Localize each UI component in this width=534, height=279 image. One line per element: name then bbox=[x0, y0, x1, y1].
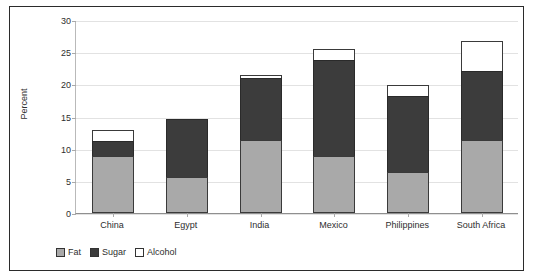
bar-segment-sugar[interactable] bbox=[461, 71, 503, 140]
bar-segment-sugar[interactable] bbox=[313, 60, 355, 157]
legend-item-sugar[interactable]: Sugar bbox=[90, 248, 126, 257]
bar-group[interactable] bbox=[76, 21, 150, 213]
bar-segment-sugar[interactable] bbox=[387, 96, 429, 173]
bar-group[interactable] bbox=[150, 21, 224, 213]
chart-title bbox=[10, 0, 534, 7]
bar-group[interactable] bbox=[445, 21, 519, 213]
y-axis-tick-label: 5 bbox=[31, 178, 71, 187]
x-axis-tick-label: China bbox=[75, 219, 149, 231]
legend-label: Alcohol bbox=[147, 248, 177, 257]
y-axis-tick-label: 25 bbox=[31, 49, 71, 58]
legend-swatch-alcohol bbox=[135, 248, 144, 257]
bar-segment-alcohol[interactable] bbox=[461, 41, 503, 73]
bar-segment-fat[interactable] bbox=[461, 140, 503, 213]
x-axis-tick bbox=[408, 213, 409, 217]
bar-segment-fat[interactable] bbox=[240, 140, 282, 213]
stacked-bar[interactable] bbox=[92, 131, 134, 213]
y-axis-tick-labels: 051015202530 bbox=[26, 21, 71, 214]
stacked-bar[interactable] bbox=[240, 76, 282, 213]
y-axis-tick-label: 30 bbox=[31, 17, 71, 26]
chart-container: Percent 051015202530 ChinaEgyptIndiaMexi… bbox=[9, 6, 524, 271]
x-axis-tick-label: Mexico bbox=[297, 219, 371, 231]
x-axis-tick-label: Egypt bbox=[149, 219, 223, 231]
legend-label: Fat bbox=[68, 248, 81, 257]
bar-group[interactable] bbox=[298, 21, 372, 213]
y-axis-tick-label: 10 bbox=[31, 146, 71, 155]
x-axis-tick bbox=[334, 213, 335, 217]
x-axis-tick bbox=[187, 213, 188, 217]
chart-legend: FatSugarAlcohol bbox=[56, 248, 177, 257]
legend-label: Sugar bbox=[102, 248, 126, 257]
x-axis-tick-label: Philippines bbox=[370, 219, 444, 231]
legend-swatch-sugar bbox=[90, 248, 99, 257]
y-axis-tick-label: 15 bbox=[31, 114, 71, 123]
x-axis-tick bbox=[482, 213, 483, 217]
legend-item-alcohol[interactable]: Alcohol bbox=[135, 248, 177, 257]
legend-item-fat[interactable]: Fat bbox=[56, 248, 81, 257]
y-axis-tick bbox=[72, 214, 76, 215]
x-axis-tick bbox=[261, 213, 262, 217]
legend-swatch-fat bbox=[56, 248, 65, 257]
bar-group[interactable] bbox=[371, 21, 445, 213]
bar-segment-fat[interactable] bbox=[387, 172, 429, 213]
stacked-bar[interactable] bbox=[313, 50, 355, 213]
stacked-bar[interactable] bbox=[387, 86, 429, 213]
bar-segment-fat[interactable] bbox=[313, 156, 355, 213]
x-axis-tick-labels: ChinaEgyptIndiaMexicoPhilippinesSouth Af… bbox=[75, 219, 518, 235]
stacked-bar[interactable] bbox=[461, 42, 503, 213]
bar-segment-sugar[interactable] bbox=[166, 119, 208, 178]
bar-segment-fat[interactable] bbox=[166, 177, 208, 213]
bar-segment-sugar[interactable] bbox=[92, 141, 134, 158]
plot-area bbox=[75, 21, 518, 214]
bar-segment-fat[interactable] bbox=[92, 156, 134, 213]
x-axis-tick-label: India bbox=[223, 219, 297, 231]
stacked-bar[interactable] bbox=[166, 120, 208, 213]
y-axis-tick-label: 20 bbox=[31, 81, 71, 90]
bar-group[interactable] bbox=[224, 21, 298, 213]
gridline bbox=[76, 214, 518, 215]
bar-segment-sugar[interactable] bbox=[240, 78, 282, 141]
y-axis-tick-label: 0 bbox=[31, 210, 71, 219]
x-axis-tick bbox=[113, 213, 114, 217]
x-axis-tick-label: South Africa bbox=[444, 219, 518, 231]
